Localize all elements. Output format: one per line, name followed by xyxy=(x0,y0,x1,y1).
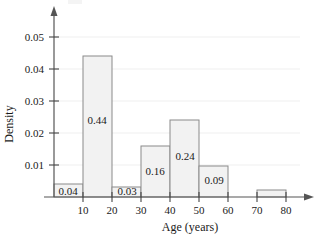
bar-label-50-60: 0.09 xyxy=(204,174,224,186)
bar-label-30-40: 0.16 xyxy=(145,165,165,177)
x-tick-label-80: 80 xyxy=(281,204,293,216)
x-tick-label-70: 70 xyxy=(252,204,264,216)
bar-label-0-10: 0.04 xyxy=(58,185,78,197)
bars-group xyxy=(54,56,286,197)
x-tick-label-10: 10 xyxy=(78,204,90,216)
y-tick-label-0.03: 0.03 xyxy=(25,95,45,107)
x-tick-label-50: 50 xyxy=(194,204,206,216)
bar-70-80 xyxy=(257,190,286,197)
top-edge-artifact xyxy=(68,0,82,4)
y-tick-label-0.01: 0.01 xyxy=(25,159,44,171)
y-tick-label-0.05: 0.05 xyxy=(25,31,45,43)
x-tick-label-30: 30 xyxy=(136,204,148,216)
bar-label-40-50: 0.24 xyxy=(175,150,195,162)
bar-label-10-20: 0.44 xyxy=(87,114,107,126)
y-tick-label-0.04: 0.04 xyxy=(25,63,45,75)
x-tick-label-20: 20 xyxy=(107,204,119,216)
x-tick-label-40: 40 xyxy=(165,204,177,216)
x-axis-title: Age (years) xyxy=(162,220,218,234)
bar-label-20-30: 0.03 xyxy=(117,185,137,197)
y-axis-title: Density xyxy=(2,105,16,142)
x-tick-label-60: 60 xyxy=(223,204,235,216)
histogram-plot-area: 0.04 0.44 0.03 0.16 0.24 0.09 0.05 0.04 … xyxy=(0,0,323,237)
histogram-figure: 0.04 0.44 0.03 0.16 0.24 0.09 0.05 0.04 … xyxy=(0,0,323,237)
y-tick-label-0.02: 0.02 xyxy=(25,127,44,139)
bar-10-20 xyxy=(83,56,112,197)
y-axis-arrow-icon xyxy=(51,6,58,16)
x-axis-arrow-icon xyxy=(304,194,314,201)
